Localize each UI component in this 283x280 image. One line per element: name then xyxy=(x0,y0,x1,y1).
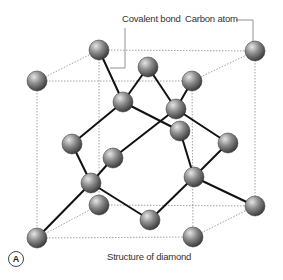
covalent-bond-leader xyxy=(110,28,125,68)
label-leader-lines xyxy=(110,20,253,68)
cube-edge xyxy=(192,81,193,237)
covalent-bond xyxy=(113,109,176,158)
carbon-atom-leader xyxy=(236,20,253,42)
carbon-atom xyxy=(245,41,265,61)
carbon-atom xyxy=(103,148,123,168)
carbon-atom xyxy=(62,134,82,154)
carbon-atoms xyxy=(27,40,265,248)
diamond-structure-diagram: Covalent bond Carbon atom A Structure of… xyxy=(0,0,283,280)
cube-edge xyxy=(99,50,255,51)
cube-edge xyxy=(192,51,255,81)
figure-caption: Structure of diamond xyxy=(107,251,191,262)
carbon-atom xyxy=(81,173,101,193)
covalent-bond-label: Covalent bond xyxy=(122,13,181,24)
carbon-atom xyxy=(138,57,158,77)
covalent-bond xyxy=(37,183,91,238)
carbon-atom xyxy=(89,40,109,60)
panel-letter-badge: A xyxy=(8,251,24,267)
cube-edge xyxy=(37,237,193,238)
carbon-atom xyxy=(184,167,204,187)
carbon-atom xyxy=(245,196,265,216)
carbon-atom xyxy=(27,71,47,91)
cube-edge xyxy=(37,50,99,81)
carbon-atom xyxy=(89,195,109,215)
cube-edge xyxy=(99,205,255,206)
lattice-drawing xyxy=(0,0,283,280)
cube-edge xyxy=(193,206,255,237)
carbon-atom xyxy=(113,92,133,112)
carbon-atom xyxy=(170,121,190,141)
carbon-atom xyxy=(140,210,160,230)
carbon-atom xyxy=(183,227,203,247)
carbon-atom xyxy=(218,133,238,153)
carbon-atom xyxy=(166,99,186,119)
carbon-atom-label: Carbon atom xyxy=(185,13,238,24)
cube-edge xyxy=(37,205,99,238)
carbon-atom xyxy=(27,228,47,248)
carbon-atom xyxy=(182,71,202,91)
